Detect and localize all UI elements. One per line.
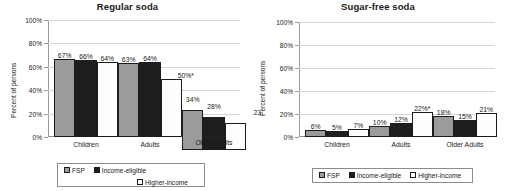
y-axis-label-right: Percent of persons <box>259 61 266 116</box>
bar-label-children-fsp-left: 67% <box>58 52 72 59</box>
legend-label-fsp-right: FSP <box>327 172 340 179</box>
y-tick-label-20-right: 20% <box>280 111 293 118</box>
y-tick-label-100-left: 100% <box>25 17 42 24</box>
panel-sugar-free-soda: Sugar-free soda Percent of persons 100% … <box>255 0 509 191</box>
legend-swatch-fsp-icon-left <box>64 167 70 173</box>
legend-swatch-income-eligible-icon-left <box>94 167 100 173</box>
legend-swatch-income-eligible-icon-right <box>349 172 355 178</box>
y-tick-80-left <box>44 43 48 44</box>
panel-regular-soda: Regular soda Percent of persons 100% 80%… <box>0 0 255 191</box>
bar-adults-higher-income-left[interactable]: 50%* <box>161 79 182 138</box>
bar-adults-fsp-right[interactable]: 10% <box>369 126 390 138</box>
legend-label-income-eligible-right: Income-eligible <box>357 172 401 179</box>
y-tick-label-20-left: 20% <box>29 110 42 117</box>
y-tick-40-right <box>295 91 299 92</box>
bar-children-higher-income-right[interactable]: 7% <box>348 129 369 137</box>
chart-title-regular-soda: Regular soda <box>0 1 255 12</box>
y-tick-40-left <box>44 90 48 91</box>
x-tick-label-older-adults-right: Older Adults <box>446 141 483 148</box>
y-tick-label-0-right: 0% <box>283 134 293 141</box>
y-tick-100-left <box>44 20 48 21</box>
bar-label-adults-fsp-left: 63% <box>122 56 136 63</box>
y-tick-label-40-left: 40% <box>29 87 42 94</box>
y-axis-line-left <box>48 20 49 137</box>
y-tick-100-right <box>295 22 299 23</box>
legend-item-higher-income-right[interactable]: Higher-income <box>410 172 461 179</box>
y-tick-20-right <box>295 114 299 115</box>
plot-area-regular-soda: 100% 80% 60% 40% 20% 0% 67% 66% 64% <box>48 20 240 137</box>
legend-swatch-higher-income-icon-right <box>410 172 416 178</box>
bar-group-older-adults-left: 34% 28% 23 Older Adults <box>182 20 246 137</box>
legend-item-fsp-left[interactable]: FSP <box>64 167 85 174</box>
legend-item-income-eligible-left[interactable]: Income-eligible <box>94 167 146 174</box>
bar-label-children-higher-income-right: 7% <box>353 122 363 129</box>
legend-label-fsp-left: FSP <box>72 167 85 174</box>
bar-label-adults-higher-income-right: 22%* <box>414 105 430 112</box>
bar-adults-fsp-left[interactable]: 63% <box>118 63 139 137</box>
bar-label-adults-income-eligible-left: 64% <box>143 55 157 62</box>
x-tick-label-children-right: Children <box>324 141 349 148</box>
bar-adults-income-eligible-left[interactable]: 64% <box>139 62 160 137</box>
bar-label-children-fsp-right: 6% <box>311 123 321 130</box>
bar-label-adults-fsp-right: 10% <box>373 119 387 126</box>
bar-group-children-left: 67% 66% 64% Children <box>54 20 118 137</box>
y-tick-60-right <box>295 68 299 69</box>
bar-children-higher-income-left[interactable]: 64% <box>97 62 118 137</box>
y-tick-label-100-right: 100% <box>276 19 293 26</box>
bar-group-children-right: 6% 5% 7% Children <box>305 22 369 137</box>
x-tick-label-adults-left: Adults <box>141 141 160 148</box>
legend-item-fsp-right[interactable]: FSP <box>319 172 340 179</box>
legend-swatch-fsp-icon-right <box>319 172 325 178</box>
bar-label-older-adults-fsp-left: 34% <box>186 96 200 103</box>
bar-adults-income-eligible-right[interactable]: 12% <box>390 123 411 137</box>
x-tick-label-children-left: Children <box>73 141 98 148</box>
bar-label-children-higher-income-left: 64% <box>101 55 115 62</box>
bar-label-older-adults-higher-income-right: 21% <box>480 106 494 113</box>
y-tick-label-80-right: 80% <box>280 42 293 49</box>
y-tick-label-60-right: 60% <box>280 65 293 72</box>
bar-older-adults-fsp-right[interactable]: 18% <box>433 116 454 137</box>
y-tick-20-left <box>44 114 48 115</box>
bar-children-fsp-left[interactable]: 67% <box>54 59 75 137</box>
bar-label-adults-income-eligible-right: 12% <box>394 116 408 123</box>
legend-label-higher-income-left: Higher-income <box>145 179 188 186</box>
y-tick-80-right <box>295 45 299 46</box>
bar-children-income-eligible-right[interactable]: 5% <box>326 131 347 137</box>
legend-item-income-eligible-right[interactable]: Income-eligible <box>349 172 401 179</box>
legend-regular-soda: FSP Income-eligible Higher-income <box>57 163 205 187</box>
legend-label-higher-income-right: Higher-income <box>418 172 461 179</box>
bar-label-children-income-eligible-right: 5% <box>332 124 342 131</box>
bar-label-older-adults-fsp-right: 18% <box>437 109 451 116</box>
legend-item-higher-income-left[interactable]: Higher-income <box>137 179 188 186</box>
bar-older-adults-higher-income-right[interactable]: 21% <box>476 113 497 137</box>
y-tick-label-40-right: 40% <box>280 88 293 95</box>
figure-two-panel-bar-charts: Regular soda Percent of persons 100% 80%… <box>0 0 509 191</box>
bar-older-adults-income-eligible-right[interactable]: 15% <box>454 120 475 137</box>
legend-label-income-eligible-left: Income-eligible <box>102 167 146 174</box>
bar-label-older-adults-income-eligible-right: 15% <box>458 113 472 120</box>
y-tick-0-left <box>44 137 48 138</box>
y-tick-60-left <box>44 67 48 68</box>
bar-group-adults-left: 63% 64% 50%* Adults <box>118 20 182 137</box>
y-tick-0-right <box>295 137 299 138</box>
bar-label-older-adults-income-eligible-left: 28% <box>207 103 221 110</box>
chart-title-sugar-free-soda: Sugar-free soda <box>251 1 505 12</box>
bar-group-older-adults-right: 18% 15% 21% Older Adults <box>433 22 497 137</box>
plot-area-sugar-free-soda: 100% 80% 60% 40% 20% 0% 6% 5% 7% <box>299 22 495 137</box>
bar-adults-higher-income-right[interactable]: 22%* <box>412 112 433 137</box>
y-tick-label-60-left: 60% <box>29 63 42 70</box>
bar-label-children-income-eligible-left: 66% <box>79 53 93 60</box>
bar-group-adults-right: 10% 12% 22%* Adults <box>369 22 433 137</box>
legend-sugar-free-soda: FSP Income-eligible Higher-income <box>312 168 473 183</box>
bar-children-income-eligible-left[interactable]: 66% <box>75 60 96 137</box>
bar-children-fsp-right[interactable]: 6% <box>305 130 326 137</box>
x-tick-label-adults-right: Adults <box>392 141 411 148</box>
y-tick-label-0-left: 0% <box>32 134 42 141</box>
y-axis-label-left: Percent of persons <box>10 63 17 118</box>
y-axis-line-right <box>299 22 300 137</box>
x-tick-label-older-adults-left: Older Adults <box>195 139 232 146</box>
y-tick-label-80-left: 80% <box>29 40 42 47</box>
legend-swatch-higher-income-icon-left <box>137 179 143 185</box>
